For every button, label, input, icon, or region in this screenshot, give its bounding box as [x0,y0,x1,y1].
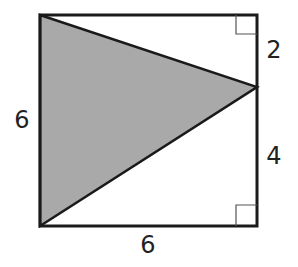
right-angle-mark-bottom-right [236,205,257,226]
label-right-upper: 2 [266,36,281,64]
label-left-side: 6 [14,106,29,134]
geometry-diagram: 6 6 2 4 [0,0,298,267]
label-bottom-side: 6 [140,231,155,259]
right-angle-mark-top-right [236,15,257,34]
shaded-triangle [40,15,257,226]
label-right-lower: 4 [266,142,281,170]
